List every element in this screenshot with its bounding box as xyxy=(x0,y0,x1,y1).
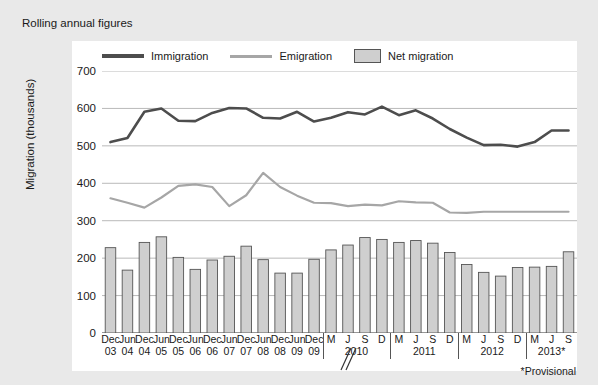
axis-break-marker xyxy=(0,0,598,385)
chart-figure: Rolling annual figures Immigration Emigr… xyxy=(0,0,598,385)
footnote-provisional: *Provisional xyxy=(521,365,576,377)
